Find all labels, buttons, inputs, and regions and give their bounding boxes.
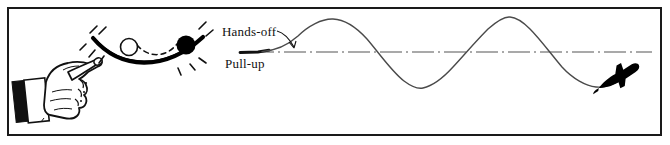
filled-ball-icon (177, 36, 196, 55)
ruler-flick-demonstration (12, 22, 213, 123)
pull-up-label: Pull-up (225, 57, 265, 70)
dashed-trajectory (137, 44, 177, 55)
hollow-ball-icon (121, 39, 138, 56)
airplane-silhouette-icon (586, 56, 644, 100)
figure-canvas (0, 0, 670, 145)
pointing-hand-icon (44, 57, 103, 119)
figure-root: Hands-off Pull-up (0, 0, 670, 145)
hands-off-label: Hands-off (222, 25, 276, 38)
phugoid-plot (240, 17, 652, 100)
phugoid-flight-path (262, 17, 624, 88)
